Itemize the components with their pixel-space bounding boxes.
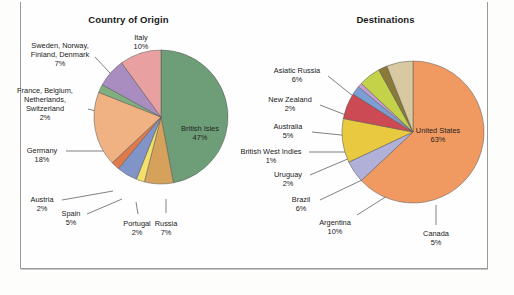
pie-label-spain: Spain 5% <box>54 209 88 227</box>
label-line-1: Russia <box>155 219 178 228</box>
label-line-1: Uruguay <box>274 170 302 179</box>
label-line-1: Austria <box>30 195 53 204</box>
label-percent: 47% <box>170 133 230 142</box>
label-line-1: British West Indies <box>240 147 301 156</box>
label-line-1: United States <box>416 126 460 135</box>
pie-label-argentina: Argentina 10% <box>310 218 360 236</box>
label-percent: 6% <box>265 75 329 84</box>
chart-panel-country-of-origin: Country of Origin <box>0 0 257 295</box>
label-percent: 10% <box>310 227 360 236</box>
label-percent: 2% <box>261 104 319 113</box>
pie-label-france-belgium-netherlands-switzerland: France, Belgium, Netherlands, Switzerlan… <box>4 86 86 122</box>
pie-label-germany: Germany 18% <box>18 146 66 164</box>
label-percent: 1% <box>235 156 307 165</box>
label-percent: 6% <box>283 204 319 213</box>
label-line-2: Netherlands, <box>24 95 66 104</box>
label-percent: 7% <box>146 228 186 237</box>
pie-label-new-zealand: New Zealand 2% <box>261 95 319 113</box>
label-line-1: Spain <box>62 209 81 218</box>
pie-slice-british-isles <box>161 50 228 183</box>
label-percent: 63% <box>405 135 471 144</box>
label-percent: 18% <box>18 155 66 164</box>
figure-root: Country of Origin <box>0 0 514 295</box>
label-percent: 2% <box>267 179 309 188</box>
label-percent: 10% <box>118 42 164 51</box>
label-line-1: Asiatic Russia <box>274 66 320 75</box>
label-percent: 2% <box>4 113 86 122</box>
pie-label-australia: Australia 5% <box>265 122 311 140</box>
pie-label-united-states: United States 63% <box>405 126 471 144</box>
label-line-1: France, Belgium, <box>17 86 73 95</box>
label-line-1: Australia <box>274 122 303 131</box>
pie-label-canada: Canada 5% <box>414 229 458 247</box>
label-line-1: New Zealand <box>268 95 312 104</box>
label-percent: 5% <box>54 218 88 227</box>
label-line-1: Germany <box>27 146 57 155</box>
pie-label-sweden-norway-finland-denmark: Sweden, Norway, Finland, Denmark 7% <box>20 41 100 68</box>
pie-label-brazil: Brazil 6% <box>283 195 319 213</box>
label-percent: 7% <box>20 59 100 68</box>
chart-title-country-of-origin: Country of Origin <box>0 14 257 25</box>
label-line-1: Italy <box>134 33 148 42</box>
label-percent: 5% <box>265 131 311 140</box>
pie-label-uruguay: Uruguay 2% <box>267 170 309 188</box>
pie-label-asiatic-russia: Asiatic Russia 6% <box>265 66 329 84</box>
label-line-1: Argentina <box>319 218 351 227</box>
label-line-2: Finland, Denmark <box>31 50 89 59</box>
label-line-1: British Isles <box>181 124 219 133</box>
label-line-3: Switzerland <box>26 104 64 113</box>
chart-title-destinations: Destinations <box>257 14 514 25</box>
label-line-1: Brazil <box>292 195 310 204</box>
pie-chart-country-of-origin <box>92 48 230 186</box>
label-line-1: Sweden, Norway, <box>31 41 88 50</box>
label-percent: 5% <box>414 238 458 247</box>
label-line-1: Canada <box>423 229 449 238</box>
pie-label-british-west-indies: British West Indies 1% <box>235 147 307 165</box>
pie-label-italy: Italy 10% <box>118 33 164 51</box>
chart-panel-destinations: Destinations <box>257 0 514 295</box>
pie-label-british-isles: British Isles 47% <box>170 124 230 142</box>
pie-label-russia: Russia 7% <box>146 219 186 237</box>
